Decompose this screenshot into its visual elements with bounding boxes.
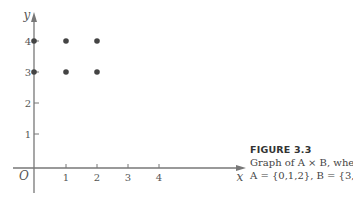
x-tick-label: 4 bbox=[156, 172, 162, 183]
point-1-3 bbox=[63, 69, 69, 75]
x-tick-label: 2 bbox=[94, 172, 100, 183]
x-tick-label: 3 bbox=[125, 172, 131, 183]
y-axis-arrow-icon bbox=[31, 12, 37, 22]
point-2-3 bbox=[94, 69, 100, 75]
data-points bbox=[31, 38, 100, 75]
point-2-4 bbox=[94, 38, 100, 44]
caption-line-2: A = {0,1,2}, B = {3,4} bbox=[250, 169, 353, 182]
point-1-4 bbox=[63, 38, 69, 44]
origin-label: O bbox=[19, 169, 29, 183]
y-tick-label: 2 bbox=[25, 98, 31, 109]
caption-line-1: Graph of A × B, where bbox=[250, 156, 353, 169]
y-tick-label: 4 bbox=[25, 36, 31, 47]
point-0-3 bbox=[31, 69, 37, 75]
x-tick-label: 1 bbox=[63, 172, 69, 183]
y-tick-label: 1 bbox=[25, 129, 31, 140]
figure-caption: FIGURE 3.3 Graph of A × B, where A = {0,… bbox=[250, 143, 353, 182]
point-0-4 bbox=[31, 38, 37, 44]
y-ticks bbox=[34, 41, 39, 134]
figure-label: FIGURE 3.3 bbox=[250, 143, 353, 156]
x-axis-label: x bbox=[237, 170, 244, 184]
y-tick-label: 3 bbox=[25, 67, 31, 78]
cartesian-plot: 1 2 3 4 4 3 2 1 O x y bbox=[0, 0, 250, 207]
y-axis-label: y bbox=[23, 8, 31, 22]
